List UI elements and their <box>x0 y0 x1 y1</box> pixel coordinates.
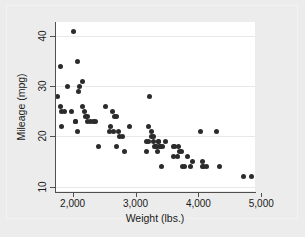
gridline-y-40 <box>55 36 255 37</box>
scatter-point <box>190 159 195 164</box>
scatter-point <box>120 134 125 139</box>
scatter-point <box>179 149 184 154</box>
scatter-point <box>75 59 80 64</box>
scatter-point <box>69 109 74 114</box>
scatter-point <box>127 124 132 129</box>
scatter-point <box>73 119 78 124</box>
x-tick-label-4000: 4,000 <box>186 198 211 209</box>
graph-region: 10203040 2,0003,0004,0005,000 Mileage (m… <box>6 5 298 219</box>
x-tick-mark-3000 <box>136 193 137 197</box>
scatter-point <box>93 119 98 124</box>
y-tick-mark-20 <box>50 136 55 137</box>
y-tick-label-text: 40 <box>37 30 48 41</box>
scatter-point <box>65 84 70 89</box>
chart-screenshot: 10203040 2,0003,0004,0005,000 Mileage (m… <box>0 0 305 237</box>
y-tick-label-text: 10 <box>37 181 48 192</box>
gridline-y-30 <box>55 86 255 87</box>
x-tick-mark-2000 <box>73 193 74 197</box>
scatter-point <box>175 154 180 159</box>
scatter-point <box>76 89 81 94</box>
scatter-point <box>114 144 119 149</box>
y-tick-mark-10 <box>50 187 55 188</box>
x-tick-mark-4000 <box>198 193 199 197</box>
scatter-point <box>146 124 151 129</box>
y-tick-label-20: 20 <box>35 136 49 137</box>
scatter-point <box>249 174 254 179</box>
scatter-point <box>58 64 63 69</box>
scatter-point <box>62 109 67 114</box>
y-axis-line <box>55 22 56 192</box>
y-tick-mark-40 <box>50 36 55 37</box>
scatter-point <box>147 94 152 99</box>
scatter-point <box>75 129 80 134</box>
scatter-point <box>96 144 101 149</box>
scatter-point <box>122 149 127 154</box>
y-tick-label-40: 40 <box>35 36 49 37</box>
y-tick-mark-30 <box>50 86 55 87</box>
scatter-point <box>155 149 160 154</box>
scatter-point <box>59 124 64 129</box>
x-tick-mark-5000 <box>261 193 262 197</box>
y-tick-label-text: 20 <box>37 131 48 142</box>
y-tick-label-30: 30 <box>35 86 49 87</box>
scatter-point <box>77 84 82 89</box>
scatter-point <box>80 104 85 109</box>
x-tick-label-3000: 3,000 <box>123 198 148 209</box>
scatter-point <box>114 114 119 119</box>
gridline-y-10 <box>55 187 255 188</box>
y-tick-label-text: 30 <box>37 81 48 92</box>
scatter-point <box>144 149 149 154</box>
scatter-point <box>71 29 76 34</box>
scatter-point <box>204 164 209 169</box>
scatter-point <box>159 164 164 169</box>
scatter-point <box>163 139 168 144</box>
scatter-point <box>217 164 222 169</box>
scatter-point <box>214 129 219 134</box>
scatter-point <box>160 144 165 149</box>
x-tick-label-5000: 5,000 <box>249 198 274 209</box>
scatter-point <box>185 154 190 159</box>
scatter-point <box>182 164 187 169</box>
scatter-point <box>80 79 85 84</box>
scatter-point <box>241 174 246 179</box>
plot-area <box>55 22 255 191</box>
y-axis-title: Mileage (mpg) <box>15 73 27 140</box>
scatter-point <box>58 104 63 109</box>
y-tick-label-10: 10 <box>35 187 49 188</box>
scatter-point <box>103 104 108 109</box>
scatter-point <box>198 129 203 134</box>
x-axis-line <box>55 192 256 193</box>
scatter-point <box>188 164 193 169</box>
x-axis-title: Weight (lbs.) <box>126 212 185 224</box>
x-tick-label-2000: 2,000 <box>60 198 85 209</box>
